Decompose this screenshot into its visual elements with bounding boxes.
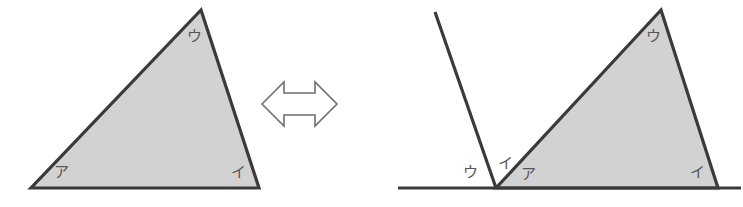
- right-figure-group: ウ イ ア イ ウ: [398, 10, 741, 188]
- transferred-triangle-shape: [496, 10, 718, 188]
- figure-canvas: ア イ ウ ウ イ ア イ ウ: [0, 0, 743, 207]
- left-triangle-label-i: イ: [231, 163, 246, 181]
- original-triangle-shape: [31, 10, 259, 188]
- left-triangle-label-u: ウ: [187, 27, 202, 45]
- triangle-angle-sum-figure: ア イ ウ ウ イ ア イ ウ: [0, 0, 743, 207]
- left-triangle-label-a: ア: [54, 163, 69, 181]
- right-figure-label-a-inner: ア: [521, 165, 536, 183]
- right-figure-label-u-outer: ウ: [463, 163, 478, 181]
- double-headed-arrow-icon: [262, 82, 337, 126]
- right-figure-label-i-middle: イ: [498, 154, 513, 172]
- right-triangle-label-u: ウ: [646, 27, 661, 45]
- right-triangle-label-i: イ: [690, 163, 705, 181]
- double-headed-arrow-shape: [262, 82, 337, 126]
- left-figure-group: ア イ ウ: [31, 10, 259, 188]
